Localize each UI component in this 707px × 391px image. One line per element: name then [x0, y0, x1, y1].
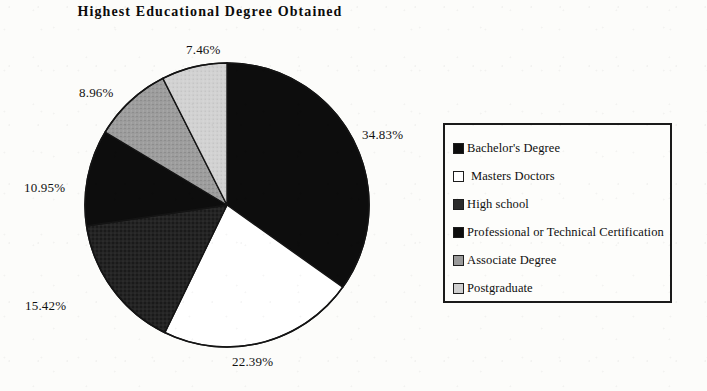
legend-item-label: Postgraduate [467, 282, 533, 295]
data-label-0: 34.83% [362, 127, 403, 143]
legend-item-label: High school [467, 198, 529, 211]
legend-item-label: Professional or Technical Certification [467, 226, 664, 239]
legend-item[interactable]: High school [453, 190, 670, 218]
pie-slices [85, 63, 369, 347]
legend-swatch-icon [453, 227, 464, 238]
pie-svg [84, 62, 370, 348]
legend-swatch-icon [453, 143, 464, 154]
legend-item-label: Bachelor's Degree [467, 142, 560, 155]
pie-chart-figure: Highest Educational Degree Obtained [0, 0, 707, 391]
data-label-4: 8.96% [79, 85, 114, 101]
chart-legend: Bachelor's DegreeMasters DoctorsHigh sch… [443, 123, 672, 303]
legend-item[interactable]: Bachelor's Degree [453, 134, 670, 162]
data-label-2: 15.42% [25, 298, 66, 314]
legend-item-label: Associate Degree [467, 254, 556, 267]
data-label-5: 7.46% [186, 42, 221, 58]
page-title: Highest Educational Degree Obtained [0, 4, 420, 20]
data-label-3: 10.95% [24, 180, 65, 196]
legend-swatch-icon [453, 199, 464, 210]
legend-swatch-icon [453, 283, 464, 294]
legend-swatch-icon [453, 255, 464, 266]
legend-item[interactable]: Professional or Technical Certification [453, 218, 670, 246]
legend-item[interactable]: Associate Degree [453, 246, 670, 274]
legend-item[interactable]: Masters Doctors [453, 162, 670, 190]
legend-item[interactable]: Postgraduate [453, 274, 670, 302]
pie-chart [84, 62, 370, 348]
legend-swatch-icon [453, 171, 464, 182]
legend-item-label: Masters Doctors [471, 170, 555, 183]
data-label-1: 22.39% [232, 354, 273, 370]
